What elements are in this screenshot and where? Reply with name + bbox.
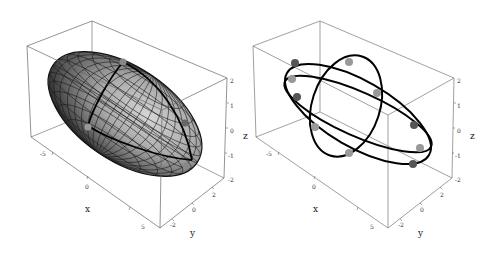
z-tick-label: 1 bbox=[457, 103, 461, 109]
x-tick-label: 0 bbox=[85, 184, 89, 190]
x-tick-label: 5 bbox=[370, 224, 374, 230]
y-tick-label: -2 bbox=[170, 222, 176, 228]
z-tick-label: -2 bbox=[228, 177, 234, 183]
x-axis-label: x bbox=[313, 205, 318, 214]
ellipsoid-surface-canvas bbox=[0, 0, 250, 253]
x-tick-label: -5 bbox=[40, 151, 46, 157]
x-tick-label: 5 bbox=[141, 224, 145, 230]
x-axis-label: x bbox=[85, 205, 90, 214]
y-tick-label: -2 bbox=[398, 222, 404, 228]
bounding-box bbox=[253, 21, 454, 228]
z-tick-label: -2 bbox=[455, 177, 461, 183]
z-tick-label: -1 bbox=[228, 153, 234, 159]
y-axis-label: y bbox=[190, 229, 195, 238]
z-tick-label: 0 bbox=[230, 128, 234, 134]
principal-ellipses-canvas bbox=[250, 0, 499, 253]
z-tick-label: 0 bbox=[457, 128, 461, 134]
y-axis-label: y bbox=[418, 229, 423, 238]
x-tick-label: -5 bbox=[266, 151, 272, 157]
x-tick-label: 0 bbox=[312, 184, 316, 190]
y-tick-label: 2 bbox=[212, 192, 216, 198]
z-tick-label: -1 bbox=[455, 153, 461, 159]
z-axis-label: z bbox=[470, 132, 475, 141]
y-tick-label: 0 bbox=[192, 207, 196, 213]
z-tick-label: 2 bbox=[457, 78, 461, 84]
y-tick-label: 2 bbox=[440, 192, 444, 198]
principal-ellipses-plot: -5 0 5 -2 0 2 2 1 0 -1 -2 x y z bbox=[250, 0, 499, 253]
z-tick-label: 1 bbox=[230, 103, 234, 109]
ellipsoid-surface bbox=[24, 22, 226, 206]
z-axis-label: z bbox=[243, 132, 248, 141]
ellipsoid-surface-plot: -5 0 5 -2 0 2 2 1 0 -1 -2 x y z bbox=[0, 0, 250, 253]
y-tick-label: 0 bbox=[420, 207, 424, 213]
z-tick-label: 2 bbox=[230, 78, 234, 84]
axis-ticks bbox=[278, 103, 456, 221]
